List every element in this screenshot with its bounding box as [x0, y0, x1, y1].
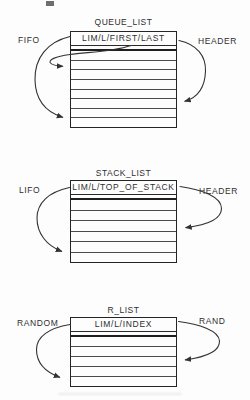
list-cell-row — [71, 200, 176, 210]
r-list-title: R_LIST — [70, 305, 177, 315]
list-cell-row — [71, 231, 176, 242]
scan-artifact-mark — [46, 1, 54, 6]
r-list-header-cell: LIM/L/INDEX — [71, 318, 176, 332]
list-cell-row — [71, 60, 176, 70]
stack-rows — [71, 200, 176, 262]
queue-rows — [71, 51, 176, 127]
r-list-table: LIM/L/INDEX — [70, 317, 177, 387]
list-cell-row — [71, 241, 176, 252]
figure-canvas: QUEUE_LIST FIFO HEADER LIM/L/FIRST/LAST … — [0, 0, 250, 400]
list-cell-row — [71, 337, 176, 346]
list-cell-row — [71, 117, 176, 127]
list-cell-row — [71, 89, 176, 99]
r-list-rows — [71, 337, 176, 386]
queue-right-arrow — [179, 41, 206, 102]
list-cell-row — [71, 356, 176, 366]
scan-artifact-shadow — [58, 393, 182, 395]
list-cell-row — [71, 376, 176, 386]
r-list-left-arrow — [37, 325, 71, 378]
list-cell-row — [71, 69, 176, 79]
list-cell-row — [71, 366, 176, 376]
stack-left-arrow — [37, 188, 70, 252]
stack-header-cell: LIM/L/TOP_OF_STACK — [71, 181, 176, 195]
queue-header-cell: LIM/L/FIRST/LAST — [71, 32, 176, 46]
queue-list-title: QUEUE_LIST — [70, 17, 177, 27]
list-cell-row — [71, 79, 176, 89]
list-cell-row — [71, 98, 176, 108]
queue-list-table: LIM/L/FIRST/LAST — [70, 31, 177, 128]
stack-right-label: HEADER — [199, 186, 238, 196]
list-cell-row — [71, 252, 176, 263]
list-cell-row — [71, 108, 176, 118]
stack-list-table: LIM/L/TOP_OF_STACK — [70, 180, 177, 263]
r-list-right-label: RAND — [199, 316, 226, 326]
list-cell-row — [71, 220, 176, 231]
queue-right-label: HEADER — [198, 36, 237, 46]
queue-left-label: FIFO — [18, 35, 40, 45]
r-list-right-arrow — [179, 322, 220, 360]
list-cell-row — [71, 346, 176, 356]
list-cell-row — [71, 210, 176, 221]
list-cell-row — [71, 51, 176, 60]
stack-left-label: LIFO — [19, 185, 40, 195]
queue-left-outer-arrow — [35, 37, 70, 118]
stack-list-title: STACK_LIST — [70, 168, 177, 178]
r-list-left-label: RANDOM — [17, 318, 58, 328]
